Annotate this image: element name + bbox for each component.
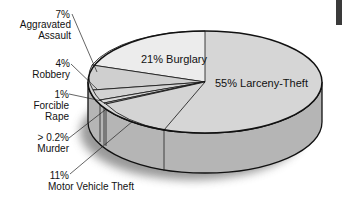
leader-aggravated <box>72 14 97 72</box>
label-aggravated-2: Assault <box>38 30 71 41</box>
label-murder: Murder <box>37 143 69 154</box>
label-murder-pct: > 0.2% <box>38 132 69 143</box>
label-aggravated-1: Aggravated <box>20 19 71 30</box>
label-rape-1: Forcible <box>33 100 69 111</box>
label-mvt: Motor Vehicle Theft <box>48 181 134 192</box>
label-rape-2: Rape <box>45 111 69 122</box>
label-robbery-pct: 4% <box>56 58 70 69</box>
label-burglary: 21% Burglary <box>141 54 207 65</box>
label-mvt-pct: 11% <box>50 170 69 181</box>
label-robbery: Robbery <box>32 69 70 80</box>
label-rape-pct: 1% <box>55 89 69 100</box>
corner-tab <box>336 0 342 25</box>
label-larceny-theft: 55% Larceny-Theft <box>215 78 308 89</box>
